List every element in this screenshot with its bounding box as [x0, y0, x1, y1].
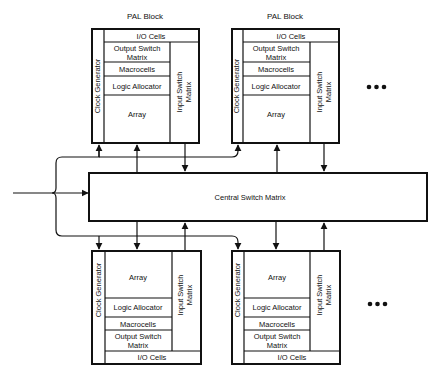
pal-block-bottom-left: Clock Generator Input Switch Matrix Arra… — [92, 251, 201, 364]
ellipsis-top-icon — [367, 85, 387, 90]
central-switch-matrix: Central Switch Matrix — [89, 173, 427, 221]
array-label: Array — [128, 110, 146, 119]
pal-block-top-left: PAL Block Clock Generator I/O Cells Inpu… — [92, 12, 199, 143]
output-switch-matrix-label-2: Matrix — [127, 53, 148, 62]
logic-allocator-label: Logic Allocator — [114, 303, 163, 312]
central-switch-matrix-label: Central Switch Matrix — [215, 193, 286, 202]
pal-block-top-right: PAL Block Clock Generator I/O Cells Inpu… — [232, 12, 339, 143]
macrocells-label: Macrocells — [119, 65, 155, 74]
macrocells-label: Macrocells — [259, 320, 295, 329]
output-switch-matrix-label-1: Output Switch — [254, 332, 301, 341]
pal-architecture-diagram: PAL Block Clock Generator I/O Cells Inpu… — [0, 0, 437, 379]
logic-allocator-label: Logic Allocator — [113, 82, 162, 91]
input-switch-matrix-label-1: Input Switch — [315, 72, 324, 113]
array-label: Array — [267, 110, 285, 119]
io-cells-label: I/O Cells — [137, 32, 166, 41]
io-cells-label: I/O Cells — [278, 353, 307, 362]
clock-generator-label: Clock Generator — [93, 58, 102, 113]
input-switch-matrix-label-1: Input Switch — [175, 72, 184, 113]
output-switch-matrix-label-1: Output Switch — [114, 44, 161, 53]
array-label: Array — [268, 273, 286, 282]
pal-block-bottom-right: Clock Generator Input Switch Matrix Arra… — [232, 251, 340, 364]
output-switch-matrix-label-2: Matrix — [267, 341, 288, 350]
io-cells-label: I/O Cells — [138, 353, 167, 362]
input-switch-matrix-label-2: Matrix — [324, 285, 333, 306]
logic-allocator-label: Logic Allocator — [253, 303, 302, 312]
array-label: Array — [129, 273, 147, 282]
output-switch-matrix-label-1: Output Switch — [115, 332, 162, 341]
output-switch-matrix-label-1: Output Switch — [253, 44, 300, 53]
ellipsis-bottom-icon — [368, 302, 388, 307]
clock-generator-label: Clock Generator — [232, 58, 241, 113]
macrocells-label: Macrocells — [120, 320, 156, 329]
input-switch-matrix-label-2: Matrix — [324, 82, 333, 103]
output-switch-matrix-label-2: Matrix — [266, 53, 287, 62]
io-cells-label: I/O Cells — [277, 32, 306, 41]
pal-block-title: PAL Block — [267, 12, 304, 21]
pal-block-title: PAL Block — [127, 12, 164, 21]
logic-allocator-label: Logic Allocator — [252, 82, 301, 91]
clock-generator-label: Clock Generator — [94, 262, 103, 317]
output-switch-matrix-label-2: Matrix — [128, 341, 149, 350]
clock-generator-label: Clock Generator — [233, 262, 242, 317]
input-switch-matrix-label-2: Matrix — [184, 82, 193, 103]
input-switch-matrix-label-2: Matrix — [185, 285, 194, 306]
input-switch-matrix-label-1: Input Switch — [176, 275, 185, 316]
input-switch-matrix-label-1: Input Switch — [315, 275, 324, 316]
macrocells-label: Macrocells — [258, 65, 294, 74]
